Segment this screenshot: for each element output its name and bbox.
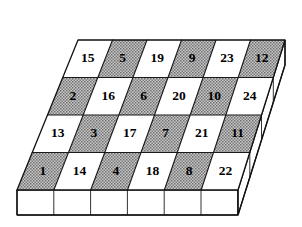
cell-label-22: 22 (219, 163, 233, 178)
checkerboard-slab-diagram: 155199231221662010241331772111114418822 (0, 0, 302, 227)
cell-label-17: 17 (123, 125, 137, 140)
cell-label-2: 2 (69, 88, 76, 103)
cell-label-8: 8 (186, 163, 193, 178)
cell-label-10: 10 (208, 88, 222, 103)
figure-root: 155199231221662010241331772111114418822 (0, 0, 302, 227)
cell-label-12: 12 (255, 50, 269, 65)
cell-label-15: 15 (81, 50, 95, 65)
cell-label-20: 20 (172, 88, 186, 103)
cell-label-21: 21 (195, 125, 209, 140)
cell-label-9: 9 (189, 50, 196, 65)
cell-label-23: 23 (220, 50, 234, 65)
cell-label-11: 11 (231, 125, 244, 140)
cell-label-3: 3 (90, 125, 97, 140)
cell-label-5: 5 (119, 50, 126, 65)
cell-label-18: 18 (146, 163, 160, 178)
slab-front-face (17, 190, 238, 215)
cell-label-1: 1 (40, 163, 47, 178)
cell-label-13: 13 (51, 125, 65, 140)
cell-label-16: 16 (101, 88, 115, 103)
cell-label-7: 7 (162, 125, 169, 140)
cell-label-14: 14 (73, 163, 87, 178)
cell-label-24: 24 (243, 88, 257, 103)
cell-label-19: 19 (151, 50, 165, 65)
cell-label-6: 6 (140, 88, 147, 103)
cell-label-4: 4 (113, 163, 120, 178)
